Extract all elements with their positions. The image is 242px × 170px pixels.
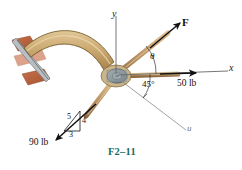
u-axis-label: u xyxy=(187,124,192,133)
slope-hypotenuse-label: 5 xyxy=(67,113,71,121)
y-axis-label: y xyxy=(112,9,116,19)
angle-theta-label: θ xyxy=(150,52,154,61)
rod-90lb xyxy=(86,82,113,116)
slope-vertical-label: 4 xyxy=(82,117,86,125)
slope-horizontal-label: 3 xyxy=(69,131,73,139)
force-F-arrow xyxy=(150,23,180,48)
force-50lb-label: 50 lb xyxy=(177,79,196,89)
force-50lb-arrow xyxy=(160,73,196,74)
angle-45-label: 45° xyxy=(142,80,155,89)
force-90lb-label: 90 lb xyxy=(29,138,48,148)
figure-container: y x u F 50 lb 90 lb θ 45° 5 4 3 F2–11 xyxy=(0,0,242,170)
figure-caption: F2–11 xyxy=(108,147,136,158)
x-axis-label: x xyxy=(229,63,233,73)
force-90lb-arrow xyxy=(56,104,96,140)
force-F-label: F xyxy=(182,17,189,28)
